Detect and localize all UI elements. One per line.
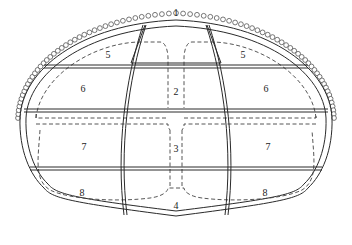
pipe-bead — [109, 22, 114, 27]
pipe-bead — [121, 18, 126, 23]
section-label-2: 2 — [174, 86, 179, 97]
pipe-bead — [265, 32, 270, 37]
pipe-bead — [250, 26, 255, 31]
section-label-8R: 8 — [263, 187, 268, 198]
pipe-bead — [139, 14, 144, 19]
pipe-bead — [103, 24, 108, 29]
section-label-8L: 8 — [80, 187, 85, 198]
inner-dashed-contour — [36, 42, 316, 200]
pipe-bead — [92, 28, 97, 33]
pipe-bead — [255, 28, 260, 33]
pipe-bead — [72, 37, 77, 42]
pipe-bead — [239, 22, 244, 27]
section-label-7L: 7 — [82, 141, 87, 152]
section-label-1: 1 — [174, 7, 179, 18]
pipe-bead — [77, 35, 82, 40]
section-label-6R: 6 — [264, 83, 269, 94]
pipe-bead — [244, 24, 249, 29]
pipe-bead — [167, 11, 172, 16]
pipe-bead — [201, 13, 206, 18]
pipe-bead — [181, 11, 186, 16]
pipe-bead — [153, 12, 158, 17]
pipe-bead — [208, 14, 213, 19]
pipe-bead — [68, 40, 73, 45]
pipe-bead — [115, 20, 120, 25]
tunnel-diagram: 155266737848 — [0, 0, 352, 245]
pipe-bead — [82, 32, 87, 37]
section-label-6L: 6 — [81, 83, 86, 94]
section-label-5L: 5 — [106, 49, 111, 60]
section-label-5R: 5 — [241, 49, 246, 60]
diagram-canvas: 155266737848 — [0, 0, 352, 245]
pipe-bead — [275, 37, 280, 42]
pipe-roof-beads — [16, 11, 337, 121]
pipe-bead — [188, 12, 193, 17]
pipe-bead — [221, 17, 226, 22]
pipe-bead — [87, 30, 92, 35]
pipe-bead — [260, 30, 265, 35]
pipe-bead — [146, 13, 151, 18]
pipe-bead — [133, 16, 138, 21]
section-label-4: 4 — [174, 200, 179, 211]
section-label-7R: 7 — [266, 141, 271, 152]
pipe-bead — [195, 12, 200, 17]
pipe-bead — [64, 43, 69, 48]
pipe-bead — [270, 35, 275, 40]
pipe-bead — [233, 20, 238, 25]
pipe-bead — [214, 16, 219, 21]
section-label-3: 3 — [174, 143, 179, 154]
pipe-bead — [98, 26, 103, 31]
pipe-bead — [127, 17, 132, 22]
vertical-ribs — [121, 25, 231, 215]
pipe-bead — [227, 18, 232, 23]
pipe-bead — [279, 40, 284, 45]
pipe-bead — [160, 12, 165, 17]
